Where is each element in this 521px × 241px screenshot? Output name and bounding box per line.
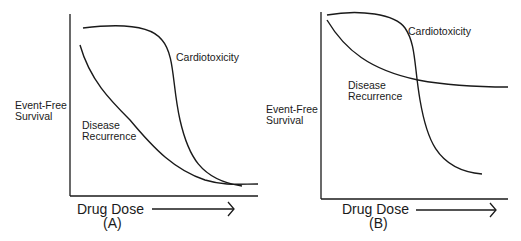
panel-a-y-label-line2: Survival	[15, 110, 52, 122]
panel-a-arrow	[152, 202, 234, 216]
panel-b-disease-label-line2: Recurrence	[348, 90, 402, 102]
panel-b-cardiotoxicity-label: Cardiotoxicity	[408, 25, 471, 37]
panel-a-disease-recurrence-curve	[80, 45, 258, 184]
panel-a-cardiotoxicity-curve	[83, 26, 242, 186]
panel-b-y-label-line2: Survival	[266, 114, 303, 126]
panel-a-panel-label: (A)	[103, 216, 122, 231]
panel-b-arrow	[416, 203, 496, 217]
panel-a-disease-label-line2: Recurrence	[82, 130, 136, 142]
panel-a-cardiotoxicity-label: Cardiotoxicity	[176, 51, 239, 63]
panel-b-axes	[321, 12, 508, 199]
panel-b-panel-label: (B)	[369, 216, 388, 231]
panel-a-axes	[70, 14, 258, 196]
